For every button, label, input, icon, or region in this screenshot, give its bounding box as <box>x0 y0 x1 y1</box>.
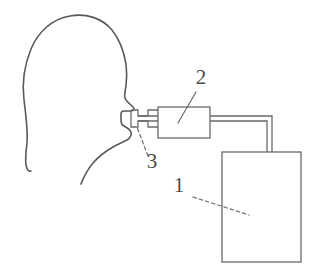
connecting-tubing <box>210 116 272 152</box>
tube-inner-line <box>210 121 267 152</box>
callout-number-1: 1 <box>174 173 185 197</box>
diagram-svg: 2 3 1 <box>0 0 326 279</box>
container-rectangle <box>222 152 301 262</box>
head-outline <box>23 15 134 184</box>
leader-line-1 <box>193 197 249 215</box>
callout-numbers: 2 3 1 <box>147 65 207 197</box>
callout-number-2: 2 <box>196 65 207 89</box>
mouthpiece <box>131 110 158 127</box>
figure-canvas: 2 3 1 <box>0 0 326 279</box>
mouthpiece-stem <box>138 116 158 121</box>
mouthpiece-flange <box>131 110 158 127</box>
callout-number-3: 3 <box>147 149 158 173</box>
human-head-profile <box>23 15 134 184</box>
collection-container <box>222 152 301 262</box>
